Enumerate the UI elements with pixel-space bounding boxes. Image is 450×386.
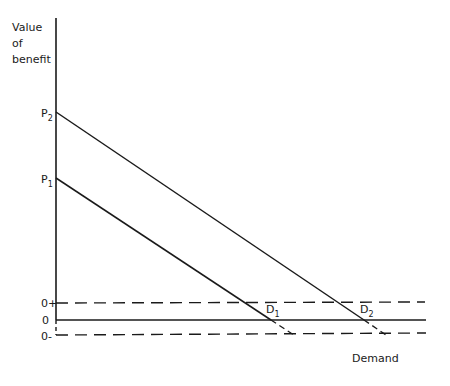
demand-label-d2: D2	[360, 303, 374, 319]
demand-curve-1	[56, 178, 271, 320]
baseline-label-zero: 0	[42, 314, 49, 327]
price-label-p2: P2	[41, 107, 53, 123]
y-axis-label-line1: Value	[12, 21, 42, 34]
baseline-label-plus: 0+	[41, 297, 57, 310]
x-axis-label: Demand	[352, 352, 399, 365]
demand-label-d1: D1	[266, 303, 280, 319]
price-label-p1: P1	[41, 173, 53, 189]
y-axis-label-line2: of	[12, 37, 24, 50]
y-axis-label-line3: benefit	[12, 53, 51, 66]
baseline-plus	[56, 302, 425, 303]
demand-curve-2	[56, 112, 364, 320]
baseline-label-minus: 0-	[41, 330, 52, 343]
baseline-minus	[56, 333, 426, 335]
demand-curve-1-extension	[271, 320, 294, 335]
demand-diagram: Value of benefit P2 P1 0+ 0 0- D1 D2 Dem…	[0, 0, 450, 386]
